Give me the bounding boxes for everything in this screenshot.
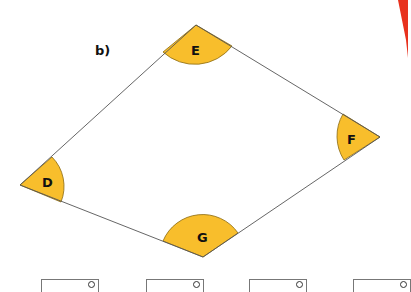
answer-box-4[interactable] [353,279,411,292]
angle-sector-f [337,114,380,160]
degree-icon [88,281,95,288]
angle-label-d: D [42,175,53,190]
degree-icon [400,281,407,288]
answer-box-1[interactable] [41,279,99,292]
angle-label-e: E [191,43,200,58]
angle-label-g: G [197,230,208,245]
degree-icon [193,281,200,288]
red-decoration [398,0,408,58]
angle-label-f: F [347,132,356,147]
part-label: b) [95,43,110,58]
degree-icon [296,281,303,288]
answer-box-3[interactable] [249,279,307,292]
answer-box-2[interactable] [146,279,204,292]
